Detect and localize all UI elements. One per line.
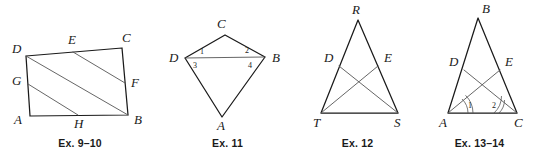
vertex-label-c: C (122, 30, 131, 45)
vertex-label-c: C (514, 115, 523, 130)
figure-caption-ex-9-10: Ex. 9–10 (0, 137, 160, 149)
vertex-label-e: E (67, 32, 76, 47)
figure-ex-12-drawing: R T S D E (295, 0, 420, 132)
figure-ex-9-10: A B C D E F G H Ex. 9–10 (0, 0, 160, 157)
vertex-label-g: G (12, 73, 22, 88)
vertex-label-a: A (216, 118, 225, 132)
figure-ex-12: R T S D E Ex. 12 (295, 0, 420, 157)
figure-ex-11: C B A D 1 2 3 4 Ex. 11 (160, 0, 295, 157)
angle-number-2: 2 (245, 46, 249, 55)
segment-gh (28, 84, 78, 115)
figure-ex-13-14-drawing: B A C D E 1 2 (420, 0, 539, 132)
vertex-label-b: B (272, 50, 280, 65)
vertex-label-f: F (130, 75, 140, 90)
figure-caption-ex-11: Ex. 11 (160, 137, 295, 149)
segment-et (321, 66, 378, 113)
figure-ex-9-10-drawing: A B C D E F G H (0, 0, 160, 132)
vertex-label-d: D (448, 54, 459, 69)
figure-ex-11-drawing: C B A D 1 2 3 4 (160, 0, 295, 132)
angle-number-1: 1 (200, 47, 204, 56)
vertex-label-a: A (438, 115, 447, 130)
vertex-label-c: C (217, 16, 226, 31)
segment-ef (73, 52, 125, 83)
angle-number-2: 2 (492, 101, 496, 110)
figure-row: A B C D E F G H Ex. 9–10 C B A D 1 2 3 4… (0, 0, 539, 157)
vertex-label-b: B (134, 112, 142, 127)
vertex-label-b: B (482, 1, 490, 16)
vertex-label-r: R (351, 2, 360, 17)
segment-db (26, 56, 128, 115)
triangle-rts-outline (321, 20, 398, 113)
vertex-label-a: A (13, 112, 22, 127)
figure-caption-ex-13-14: Ex. 13–14 (420, 137, 539, 149)
vertex-label-e: E (383, 50, 392, 65)
vertex-label-d: D (168, 50, 179, 65)
angle-number-1: 1 (468, 101, 472, 110)
segment-db (185, 57, 265, 58)
vertex-label-s: S (394, 115, 401, 130)
angle-number-3: 3 (193, 61, 197, 70)
figure-caption-ex-12: Ex. 12 (295, 137, 420, 149)
vertex-label-h: H (73, 116, 84, 131)
figure-ex-13-14: B A C D E 1 2 Ex. 13–14 (420, 0, 539, 157)
angle-number-4: 4 (248, 61, 252, 70)
vertex-label-e: E (504, 54, 513, 69)
vertex-label-d: D (323, 50, 334, 65)
vertex-label-t: T (313, 115, 321, 130)
kite-acbd-outline (185, 35, 265, 117)
vertex-label-d: D (11, 41, 22, 56)
segment-ds (339, 66, 398, 113)
